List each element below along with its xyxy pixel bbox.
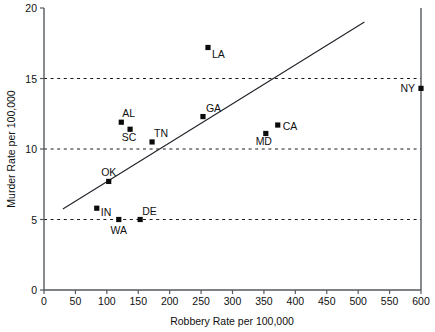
data-point-label: TN bbox=[154, 127, 168, 139]
x-tick-label: 400 bbox=[287, 295, 305, 307]
data-point-marker bbox=[138, 217, 143, 222]
data-point-label: MD bbox=[256, 135, 273, 147]
y-tick-label: 5 bbox=[31, 214, 37, 226]
data-point-marker bbox=[418, 86, 423, 91]
x-tick-label: 0 bbox=[41, 295, 47, 307]
data-point-marker bbox=[94, 206, 99, 211]
plot-canvas: 050100150200250300350400450500550600 051… bbox=[0, 0, 435, 332]
data-point-label: AL bbox=[122, 107, 135, 119]
y-tick-label: 10 bbox=[25, 143, 37, 155]
data-point-marker bbox=[119, 120, 124, 125]
x-tick-label: 300 bbox=[224, 295, 242, 307]
data-point-label: IN bbox=[101, 206, 112, 218]
y-tick-label: 15 bbox=[25, 73, 37, 85]
scatter-chart: 050100150200250300350400450500550600 051… bbox=[0, 0, 435, 332]
data-point-marker bbox=[116, 217, 121, 222]
data-point-marker bbox=[200, 114, 205, 119]
data-point-label: GA bbox=[206, 102, 221, 114]
data-point-label: LA bbox=[212, 48, 225, 60]
x-tick-label: 150 bbox=[129, 295, 147, 307]
y-axis-title: Murder Rate per 100,000 bbox=[5, 90, 17, 207]
x-tick-label: 200 bbox=[161, 295, 179, 307]
x-tick-label: 450 bbox=[318, 295, 336, 307]
y-tick-label: 20 bbox=[25, 2, 37, 14]
data-point-marker bbox=[275, 122, 280, 127]
data-point-label: DE bbox=[142, 205, 157, 217]
data-point-marker bbox=[149, 139, 154, 144]
y-tick-group: 05101520 bbox=[25, 2, 44, 296]
data-point-label: SC bbox=[122, 131, 137, 143]
data-point-label: OK bbox=[101, 166, 116, 178]
x-tick-label: 550 bbox=[381, 295, 399, 307]
axes-group bbox=[44, 8, 421, 290]
x-tick-group: 050100150200250300350400450500550600 bbox=[41, 290, 430, 307]
plot-frame bbox=[44, 8, 421, 290]
data-point-label: WA bbox=[111, 224, 128, 236]
x-tick-label: 500 bbox=[349, 295, 367, 307]
gridlines-group bbox=[44, 79, 421, 220]
data-point-marker bbox=[106, 179, 111, 184]
data-points-group: LANYGAALSCCAMDTNOKINDEWA bbox=[94, 45, 423, 236]
x-axis-title: Robbery Rate per 100,000 bbox=[170, 315, 294, 327]
x-tick-label: 50 bbox=[70, 295, 82, 307]
x-tick-label: 250 bbox=[192, 295, 210, 307]
y-tick-label: 0 bbox=[31, 284, 37, 296]
data-point-label: NY bbox=[400, 82, 415, 94]
x-tick-label: 100 bbox=[98, 295, 116, 307]
data-point-label: CA bbox=[283, 120, 298, 132]
x-tick-label: 600 bbox=[412, 295, 430, 307]
data-point-marker bbox=[205, 45, 210, 50]
x-tick-label: 350 bbox=[255, 295, 273, 307]
